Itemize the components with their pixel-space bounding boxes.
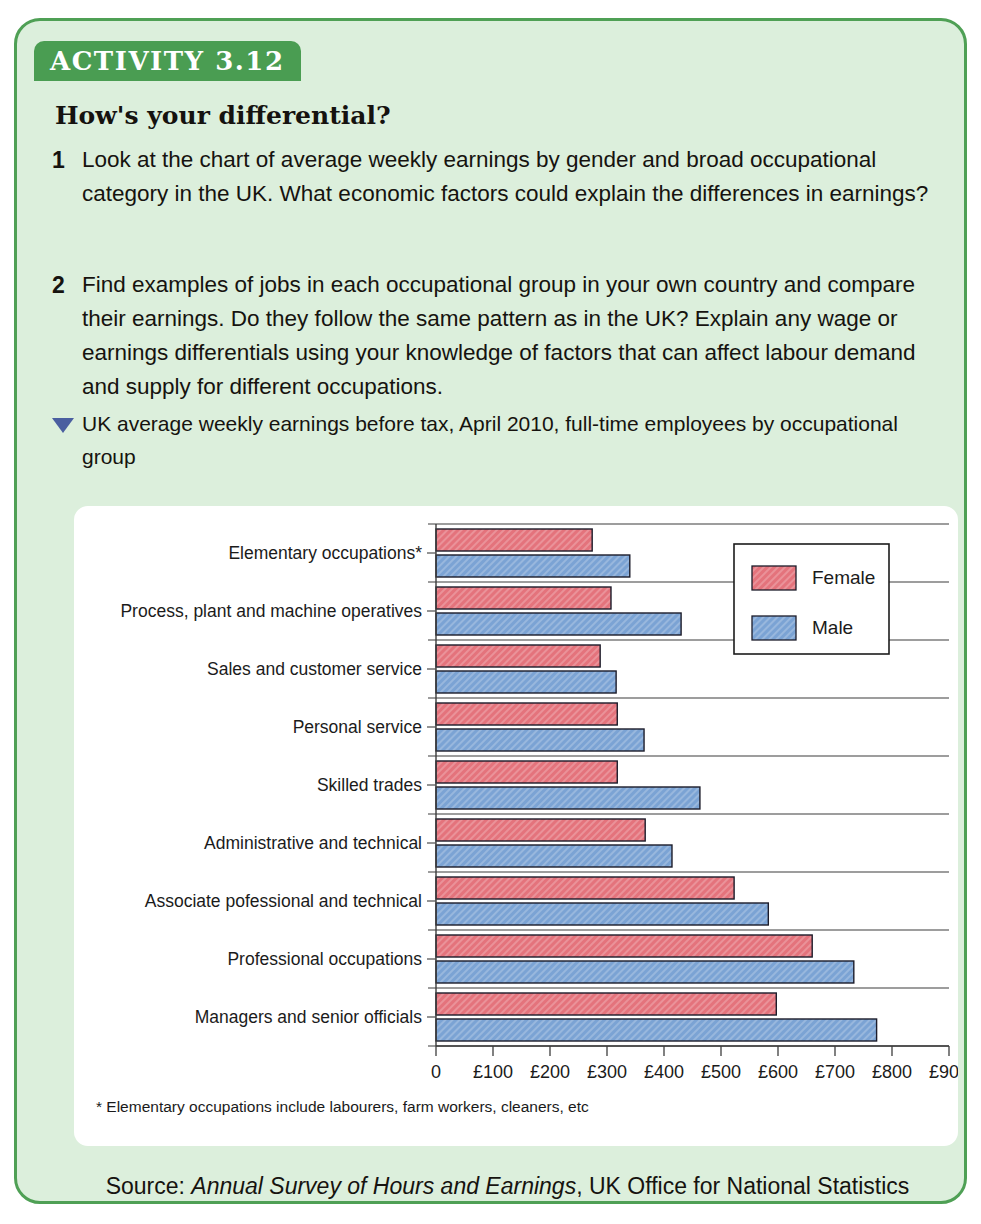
bar-female [436, 703, 617, 725]
x-tick-label: £200 [530, 1062, 570, 1082]
category-label: Managers and senior officials [195, 1007, 423, 1027]
legend-label-female: Female [812, 567, 875, 588]
bar-female [436, 529, 592, 551]
earnings-bar-chart: Elementary occupations*Process, plant an… [74, 506, 958, 1106]
activity-tab-header: ACTIVITY 3.12 [34, 41, 301, 81]
bar-male [436, 613, 681, 635]
chart-footnote: * Elementary occupations include laboure… [96, 1098, 589, 1116]
bar-female [436, 993, 776, 1015]
x-tick-label: £700 [815, 1062, 855, 1082]
category-label: Process, plant and machine operatives [120, 601, 422, 621]
task-number: 1 [52, 143, 82, 177]
category-label: Personal service [293, 717, 422, 737]
task-text: Find examples of jobs in each occupation… [82, 268, 957, 404]
source-title: Annual Survey of Hours and Earnings [191, 1173, 576, 1199]
bar-male [436, 961, 854, 983]
x-tick-label: £300 [587, 1062, 627, 1082]
x-tick-label: £600 [758, 1062, 798, 1082]
category-label: Skilled trades [317, 775, 422, 795]
bar-male [436, 1019, 877, 1041]
bar-female [436, 819, 645, 841]
x-tick-label: £500 [701, 1062, 741, 1082]
chart-card: Elementary occupations*Process, plant an… [74, 506, 958, 1146]
bar-female [436, 877, 734, 899]
bar-female [436, 587, 611, 609]
task-item-2: 2 Find examples of jobs in each occupati… [52, 268, 957, 404]
category-label: Associate pofessional and technical [145, 891, 422, 911]
category-label: Sales and customer service [207, 659, 422, 679]
bar-female [436, 935, 812, 957]
bar-male [436, 671, 616, 693]
task-number: 2 [52, 268, 82, 302]
bar-female [436, 761, 617, 783]
category-label: Elementary occupations* [228, 543, 422, 563]
legend-swatch-male [752, 616, 796, 640]
activity-content: How's your differential? 1 Look at the c… [34, 81, 981, 1163]
task-text: Look at the chart of average weekly earn… [82, 143, 957, 211]
chart-svg: Elementary occupations*Process, plant an… [74, 506, 958, 1106]
x-tick-label: 0 [431, 1062, 441, 1082]
x-tick-label: £400 [644, 1062, 684, 1082]
triangle-down-icon [52, 407, 82, 433]
task-item-1: 1 Look at the chart of average weekly ea… [52, 143, 957, 211]
bar-male [436, 729, 644, 751]
bar-male [436, 555, 630, 577]
activity-tab-label: ACTIVITY 3.12 [50, 48, 285, 74]
x-tick-label: £100 [473, 1062, 513, 1082]
source-suffix: , UK Office for National Statistics [576, 1173, 909, 1199]
figure-caption-text: UK average weekly earnings before tax, A… [82, 407, 952, 473]
x-tick-label: £800 [872, 1062, 912, 1082]
figure-caption: UK average weekly earnings before tax, A… [52, 407, 952, 473]
bar-male [436, 845, 672, 867]
x-tick-label: £900 [929, 1062, 958, 1082]
legend-swatch-female [752, 566, 796, 590]
source-prefix: Source: [106, 1173, 192, 1199]
bar-male [436, 903, 768, 925]
bar-male [436, 787, 700, 809]
category-label: Administrative and technical [204, 833, 422, 853]
activity-heading: How's your differential? [55, 101, 391, 130]
source-line: Source: Annual Survey of Hours and Earni… [34, 1173, 981, 1200]
activity-panel: ACTIVITY 3.12 How's your differential? 1… [14, 18, 967, 1204]
bar-female [436, 645, 600, 667]
legend-label-male: Male [812, 617, 853, 638]
category-label: Professional occupations [227, 949, 422, 969]
